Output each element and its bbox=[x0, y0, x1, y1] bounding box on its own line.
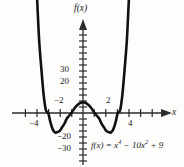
x-tick-label-neg2: −2 bbox=[54, 96, 64, 105]
equation-annotation: f(x) = x4 − 10x2 + 9 bbox=[91, 141, 163, 150]
x-tick-label-2: 2 bbox=[106, 96, 111, 105]
equation-middle: − 10x bbox=[121, 140, 145, 150]
x-tick-label-neg4: −4 bbox=[29, 119, 39, 128]
function-graph-figure: f(x) x 30 20 −20 −30 −4 −2 2 4 f(x) = x4… bbox=[0, 0, 184, 167]
x-tick-label-4: 4 bbox=[128, 119, 133, 128]
y-tick-label-neg20: −20 bbox=[57, 132, 71, 141]
y-tick-label-30: 30 bbox=[60, 65, 69, 74]
equation-head: f(x) = x bbox=[91, 140, 118, 150]
x-axis-label: x bbox=[172, 108, 176, 118]
y-tick-label-20: 20 bbox=[60, 77, 69, 86]
y-axis-label: f(x) bbox=[74, 4, 87, 14]
equation-tail: + 9 bbox=[148, 140, 163, 150]
y-tick-label-neg30: −30 bbox=[57, 144, 71, 153]
